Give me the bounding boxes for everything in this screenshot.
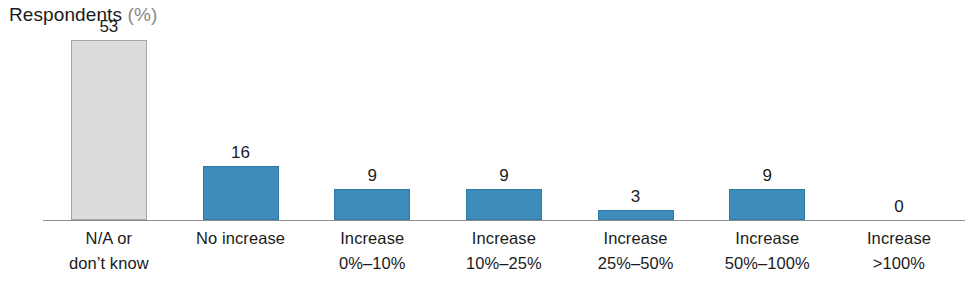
bar-slot: 16: [175, 30, 307, 220]
bar-rect[interactable]: [71, 40, 147, 220]
bar-slot: 3: [570, 30, 702, 220]
bar-value-label: 16: [175, 143, 307, 163]
x-axis-label: Increase10%–25%: [438, 226, 570, 276]
x-axis-label-line1: Increase: [867, 229, 931, 247]
x-axis-label: Increase>100%: [833, 226, 965, 276]
bar-rect[interactable]: [334, 189, 410, 220]
bar-rect[interactable]: [203, 166, 279, 220]
x-axis-label: N/A ordon’t know: [43, 226, 175, 276]
x-axis-label-line1: Increase: [735, 229, 799, 247]
x-axis-label-line1: No increase: [196, 229, 285, 247]
bar-value-label: 0: [833, 197, 965, 217]
x-axis-label-line1: N/A or: [86, 229, 132, 247]
bar-rect[interactable]: [598, 210, 674, 220]
x-axis-label-line2: 50%–100%: [701, 251, 833, 276]
bar-value-label: 9: [438, 166, 570, 186]
x-axis-label-line2: 0%–10%: [306, 251, 438, 276]
bar-slot: 9: [306, 30, 438, 220]
bar-slot: 0: [833, 30, 965, 220]
bars-container: 531699390: [43, 30, 965, 220]
x-axis-baseline: [43, 220, 965, 221]
x-axis-label: Increase0%–10%: [306, 226, 438, 276]
x-axis-label: Increase25%–50%: [570, 226, 702, 276]
x-axis-label-line1: Increase: [604, 229, 668, 247]
bar-chart: Respondents (%) 531699390 N/A ordon’t kn…: [0, 0, 980, 287]
x-axis-label-line2: 25%–50%: [570, 251, 702, 276]
bar-slot: 9: [438, 30, 570, 220]
x-axis-label-line1: Increase: [472, 229, 536, 247]
bar-value-label: 9: [701, 166, 833, 186]
bar-slot: 9: [701, 30, 833, 220]
x-axis-label-line2: don’t know: [43, 251, 175, 276]
bar-rect[interactable]: [729, 189, 805, 220]
bar-slot: 53: [43, 30, 175, 220]
bar-rect[interactable]: [466, 189, 542, 220]
bar-value-label: 53: [43, 17, 175, 37]
x-axis-label-line1: Increase: [340, 229, 404, 247]
x-axis-labels: N/A ordon’t knowNo increaseIncrease0%–10…: [43, 226, 965, 276]
x-axis-label-line2: >100%: [833, 251, 965, 276]
x-axis-label-line2: 10%–25%: [438, 251, 570, 276]
x-axis-label: No increase: [175, 226, 307, 276]
bar-value-label: 9: [306, 166, 438, 186]
x-axis-label: Increase50%–100%: [701, 226, 833, 276]
bar-value-label: 3: [570, 187, 702, 207]
